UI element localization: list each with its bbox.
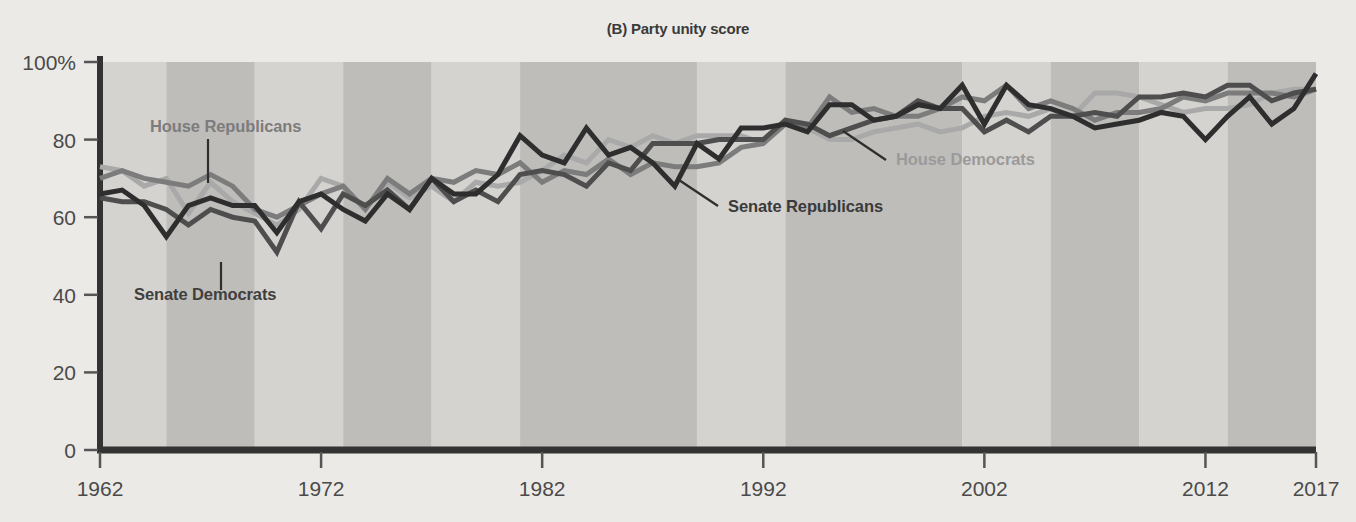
y-tick-label: 0 bbox=[64, 439, 76, 462]
y-tick-label: 20 bbox=[53, 361, 76, 384]
term-band bbox=[1139, 62, 1227, 450]
chart-title: (B) Party unity score bbox=[607, 20, 750, 37]
term-band bbox=[432, 62, 520, 450]
y-tick-label: 80 bbox=[53, 129, 76, 152]
x-tick-label: 1992 bbox=[740, 477, 787, 500]
x-tick-label: 2017 bbox=[1293, 477, 1340, 500]
annotation-label-house-republicans: House Republicans bbox=[150, 117, 301, 135]
y-tick-label: 40 bbox=[53, 284, 76, 307]
annotation-label-house-democrats: House Democrats bbox=[896, 150, 1035, 168]
x-tick-label: 1982 bbox=[519, 477, 566, 500]
term-band bbox=[520, 62, 697, 450]
term-band bbox=[697, 62, 785, 450]
term-band bbox=[343, 62, 431, 450]
y-tick-label: 100% bbox=[22, 51, 76, 74]
party-unity-chart: 020406080100%196219721982199220022012201… bbox=[0, 0, 1356, 522]
annotation-label-senate-democrats: Senate Democrats bbox=[134, 285, 276, 303]
x-tick-label: 2002 bbox=[961, 477, 1008, 500]
x-tick-label: 1972 bbox=[298, 477, 345, 500]
annotation-label-senate-republicans: Senate Republicans bbox=[728, 197, 883, 215]
x-tick-label: 1962 bbox=[77, 477, 124, 500]
chart-canvas: 020406080100%196219721982199220022012201… bbox=[0, 0, 1356, 522]
y-tick-label: 60 bbox=[53, 206, 76, 229]
x-tick-label: 2012 bbox=[1182, 477, 1229, 500]
